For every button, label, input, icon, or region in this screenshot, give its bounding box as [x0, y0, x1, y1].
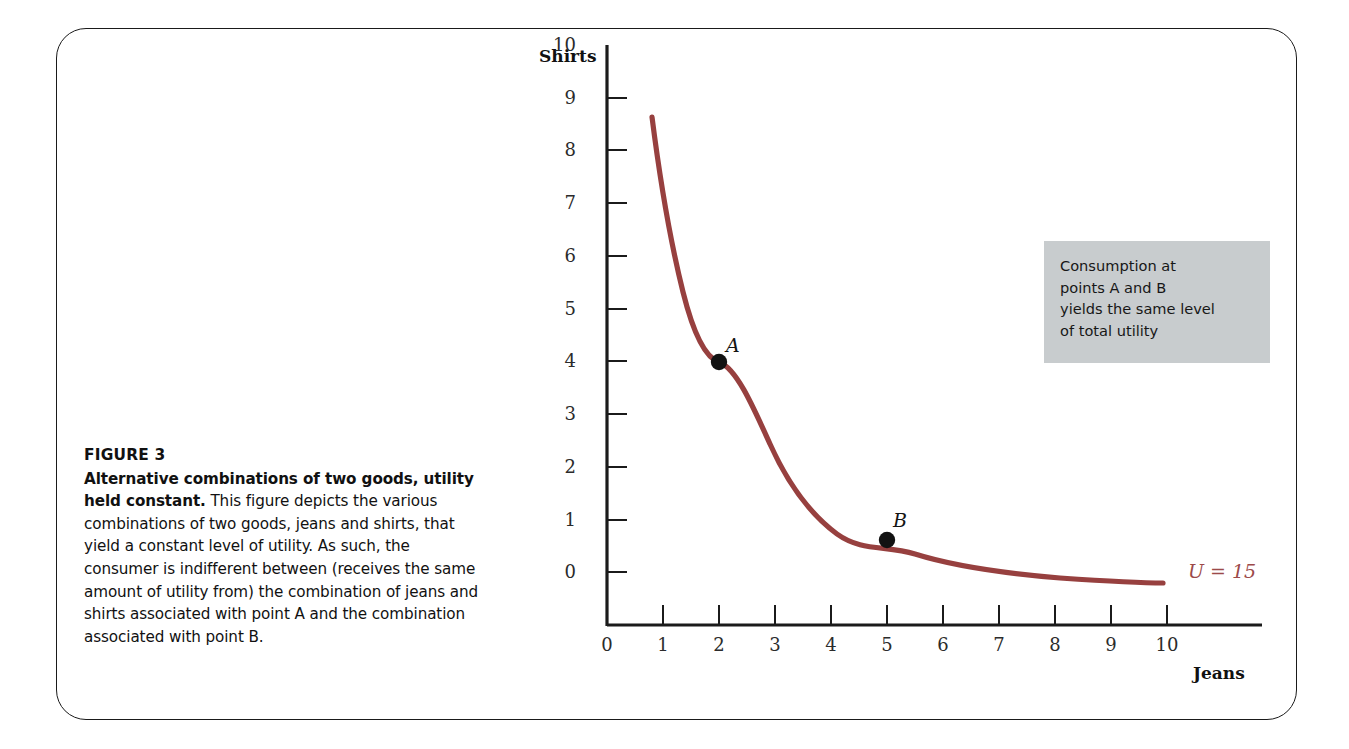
figure-description: This figure depicts the various combinat… [84, 492, 478, 646]
y-tick-label-10: 10 [536, 34, 576, 55]
callout-line-4: of total utility [1060, 320, 1270, 342]
x-tick-label-4: 4 [816, 634, 846, 655]
x-tick-label-9: 9 [1096, 634, 1126, 655]
y-tick-label-1: 1 [536, 509, 576, 530]
x-tick-label-2: 2 [704, 634, 734, 655]
x-tick-label-1: 1 [648, 634, 678, 655]
y-tick-label-0: 0 [536, 561, 576, 582]
x-tick-label-8: 8 [1040, 634, 1070, 655]
callout-line-2: points A and B [1060, 277, 1270, 299]
x-tick-label-7: 7 [984, 634, 1014, 655]
x-tick-label-0: 0 [592, 634, 622, 655]
curve-label-u15: U = 15 [1188, 560, 1256, 582]
y-tick-label-6: 6 [536, 245, 576, 266]
x-tick-label-10: 10 [1152, 634, 1182, 655]
y-tick-label-2: 2 [536, 456, 576, 477]
y-tick-label-8: 8 [536, 139, 576, 160]
figure-caption: FIGURE 3 Alternative combinations of two… [84, 444, 484, 648]
y-tick-label-4: 4 [536, 350, 576, 371]
callout-line-1: Consumption at [1060, 255, 1270, 277]
x-axis-title: Jeans [1193, 663, 1245, 683]
data-point-label-b: B [893, 509, 907, 531]
data-point-label-a: A [726, 334, 740, 356]
x-tick-label-6: 6 [928, 634, 958, 655]
callout-line-3: yields the same level [1060, 298, 1270, 320]
x-tick-label-5: 5 [872, 634, 902, 655]
y-tick-label-7: 7 [536, 192, 576, 213]
callout-box: Consumption at points A and B yields the… [1044, 241, 1270, 363]
figure-number: FIGURE 3 [84, 444, 484, 467]
x-tick-label-3: 3 [760, 634, 790, 655]
y-tick-label-9: 9 [536, 87, 576, 108]
y-tick-label-5: 5 [536, 298, 576, 319]
y-tick-label-3: 3 [536, 403, 576, 424]
